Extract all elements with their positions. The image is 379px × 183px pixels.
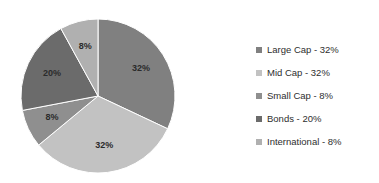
legend-item-label: Large Cap - 32% [267,45,339,55]
legend-item-international[interactable]: International - 8% [256,130,376,153]
pie-plot-area: 32% 32% 8% 20% 8% [0,0,240,183]
legend-item-small-cap[interactable]: Small Cap - 8% [256,84,376,107]
legend-item-label: Small Cap - 8% [267,91,333,101]
legend-swatch-icon [256,93,262,99]
legend-item-label: Bonds - 20% [267,114,321,124]
pie-label-small-cap: 8% [41,113,63,122]
legend-item-large-cap[interactable]: Large Cap - 32% [256,38,376,61]
legend-swatch-icon [256,47,262,53]
pie-label-mid-cap: 32% [93,141,115,150]
pie-svg [0,0,240,183]
legend-swatch-icon [256,116,262,122]
legend-item-bonds[interactable]: Bonds - 20% [256,107,376,130]
legend-swatch-icon [256,139,262,145]
chart-legend: Large Cap - 32% Mid Cap - 32% Small Cap … [256,38,376,153]
pie-chart: 32% 32% 8% 20% 8% Large Cap - 32% Mid Ca… [0,0,379,183]
legend-swatch-icon [256,70,262,76]
pie-label-large-cap: 32% [130,64,152,73]
legend-item-label: International - 8% [267,137,341,147]
pie-label-international: 8% [74,42,96,51]
pie-label-bonds: 20% [41,69,63,78]
legend-item-label: Mid Cap - 32% [267,68,330,78]
legend-item-mid-cap[interactable]: Mid Cap - 32% [256,61,376,84]
